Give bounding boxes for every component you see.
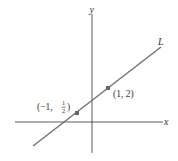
svg-text:(−1,: (−1, <box>37 102 53 113</box>
point-marker-2 <box>106 86 110 90</box>
line-l-label: L <box>157 36 164 47</box>
point-marker-1 <box>75 111 79 115</box>
coordinate-diagram: y x L (−1, 1 2 ) (1, 2) <box>0 0 178 161</box>
svg-text:1: 1 <box>62 99 65 106</box>
svg-text:): ) <box>67 102 70 113</box>
point-label-1: (−1, 1 2 ) <box>37 99 70 114</box>
point-label-2: (1, 2) <box>113 89 134 100</box>
line-l <box>33 47 161 146</box>
svg-text:2: 2 <box>62 107 65 114</box>
x-axis-label: x <box>163 116 169 127</box>
y-axis-label: y <box>89 4 95 15</box>
